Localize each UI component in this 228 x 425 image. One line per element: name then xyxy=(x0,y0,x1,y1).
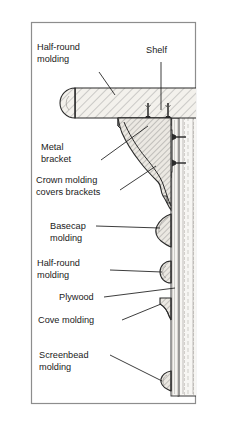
diagram-figure: Half-round molding Shelf Metal bracket C… xyxy=(0,0,228,425)
label-text-line1: Metal xyxy=(41,142,63,152)
section-drawing-canvas: Half-round molding Shelf Metal bracket C… xyxy=(0,0,228,425)
label-text-line1: Shelf xyxy=(146,45,167,55)
label-text-line1: Half-round xyxy=(37,258,80,268)
label-text-line1: Cove molding xyxy=(38,315,94,325)
label-plywood: Plywood xyxy=(59,292,94,302)
label-text-line1: Half-round xyxy=(37,42,80,52)
wall-surface xyxy=(178,108,199,396)
label-text-line2: molding xyxy=(37,54,69,64)
shelf-board xyxy=(75,88,199,118)
label-text-line1: Plywood xyxy=(59,292,94,302)
label-text-line1: Crown molding xyxy=(36,175,97,185)
label-text-line2: molding xyxy=(39,362,71,372)
label-text-line1: Basecap xyxy=(50,221,86,231)
label-text-line2: bracket xyxy=(41,154,72,164)
label-text-line2: molding xyxy=(37,270,69,280)
label-text-line1: Screenbead xyxy=(39,350,89,360)
label-text-line2: covers brackets xyxy=(36,187,101,197)
label-text-line2: molding xyxy=(50,233,82,243)
label-shelf: Shelf xyxy=(146,45,167,55)
label-cove-molding: Cove molding xyxy=(38,315,94,325)
